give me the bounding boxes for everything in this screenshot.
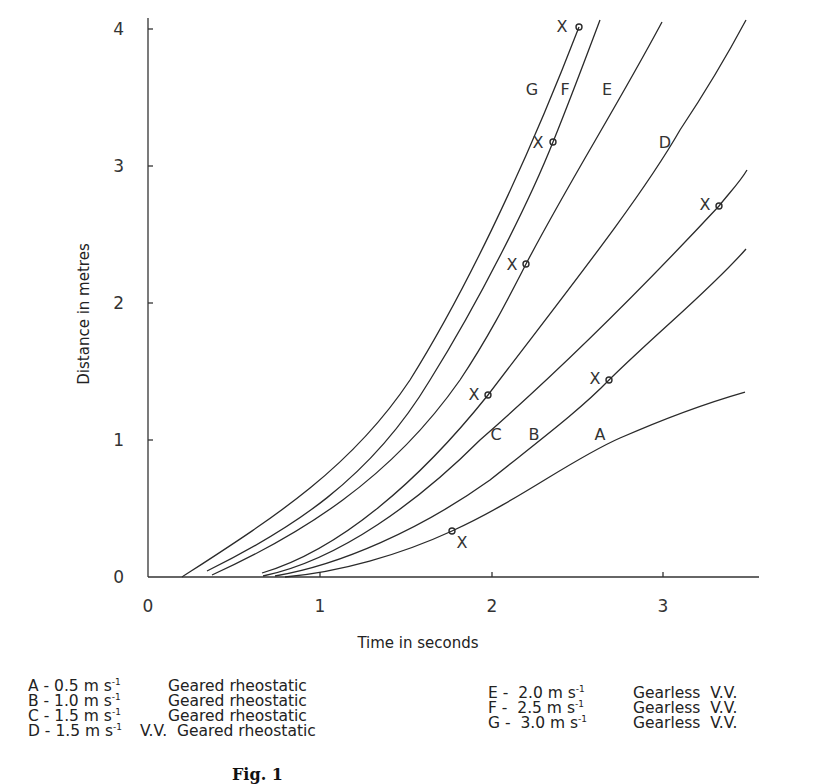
- x-axis-title: Time in seconds: [356, 634, 478, 652]
- curve-label-f: F: [560, 80, 569, 99]
- legend-exp-a: -1: [112, 677, 121, 687]
- legend-exp-f: -1: [575, 699, 584, 709]
- x-tick-label-3: 3: [658, 596, 669, 616]
- legend-row-c: C - 1.5 m s-1Geared rheostatic: [28, 705, 316, 720]
- legend-code-d: D - 1.5 m s: [28, 722, 113, 740]
- legend-code-g: G - 3.0 m s: [488, 714, 578, 732]
- legend-exp-d: -1: [113, 722, 122, 732]
- legend-desc-d: V.V. Geared rheostatic: [140, 724, 316, 739]
- curve-label-c: C: [490, 425, 501, 444]
- legend-exp-c: -1: [112, 707, 121, 717]
- marker-x-f: X: [533, 133, 544, 152]
- curve-label-a: A: [595, 425, 606, 444]
- legend-exp-g: -1: [578, 714, 587, 724]
- marker-x-a: X: [457, 533, 468, 552]
- curve-e: [212, 22, 662, 575]
- curve-label-b: B: [529, 425, 540, 444]
- x-tick-label-0: 0: [143, 596, 154, 616]
- legend-row-e: E - 2.0 m s-1Gearless V.V.: [488, 682, 737, 697]
- legend-exp-b: -1: [112, 692, 121, 702]
- curve-a: [285, 392, 745, 577]
- markers: [449, 24, 722, 534]
- curves: [182, 20, 747, 577]
- curve-d: [262, 20, 746, 573]
- legend-right: E - 2.0 m s-1Gearless V.V. F - 2.5 m s-1…: [488, 682, 737, 727]
- y-tick-label-3: 3: [113, 156, 124, 176]
- curve-label-g: G: [526, 80, 538, 99]
- x-tick-label-2: 2: [487, 596, 498, 616]
- legend-row-a: A - 0.5 m s-1Geared rheostatic: [28, 675, 316, 690]
- y-tick-label-1: 1: [113, 430, 124, 450]
- axes: [148, 18, 759, 577]
- y-axis-title: Distance in metres: [75, 243, 93, 385]
- marker-x-g: X: [557, 17, 568, 36]
- marker-x-d: X: [469, 385, 480, 404]
- curve-label-e: E: [602, 80, 612, 99]
- legend-row-g: G - 3.0 m s-1Gearless V.V.: [488, 712, 737, 727]
- legend-left: A - 0.5 m s-1Geared rheostatic B - 1.0 m…: [28, 675, 316, 735]
- legend-row-b: B - 1.0 m s-1Geared rheostatic: [28, 690, 316, 705]
- marker-x-b: X: [590, 369, 601, 388]
- x-tick-label-1: 1: [315, 596, 326, 616]
- marker-x-c: X: [700, 195, 711, 214]
- y-tick-label-0: 0: [113, 567, 124, 587]
- marker-x-e: X: [507, 255, 518, 274]
- curve-f: [207, 20, 600, 571]
- legend-row-f: F - 2.5 m s-1Gearless V.V.: [488, 697, 737, 712]
- curve-label-d: D: [659, 133, 671, 152]
- figure-caption: Fig. 1: [232, 765, 283, 784]
- legend-desc-g: Gearless V.V.: [633, 716, 737, 731]
- legend-exp-e: -1: [576, 684, 585, 694]
- y-tick-label-2: 2: [113, 293, 124, 313]
- y-tick-label-4: 4: [113, 19, 124, 39]
- legend-row-d: D - 1.5 m s-1V.V. Geared rheostatic: [28, 720, 316, 735]
